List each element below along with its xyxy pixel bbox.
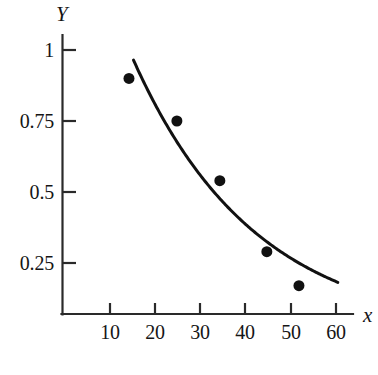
data-point xyxy=(123,73,134,84)
fitted-curve xyxy=(134,60,338,282)
y-tick-label-0-75: 0.75 xyxy=(20,111,54,131)
x-tick-label-20: 20 xyxy=(145,322,165,342)
data-point-group xyxy=(123,73,304,291)
data-point xyxy=(261,246,272,257)
x-axis-ticks xyxy=(110,303,336,314)
x-tick-label-40: 40 xyxy=(235,322,255,342)
data-point xyxy=(171,116,182,127)
data-point xyxy=(214,175,225,186)
x-tick-label-30: 30 xyxy=(190,322,210,342)
axis-lines xyxy=(62,35,354,315)
x-axis-title: x xyxy=(363,305,372,326)
y-tick-label-0-25: 0.25 xyxy=(20,253,54,273)
y-tick-label-0-5: 0.5 xyxy=(30,182,54,202)
y-tick-label-1: 1 xyxy=(44,40,54,60)
x-tick-label-60: 60 xyxy=(326,322,346,342)
plot-canvas xyxy=(0,0,378,375)
y-axis-title: Y xyxy=(56,4,68,25)
x-tick-label-10: 10 xyxy=(100,322,120,342)
x-tick-label-50: 50 xyxy=(281,322,301,342)
data-point xyxy=(293,280,304,291)
y-axis-ticks xyxy=(63,50,77,263)
scatter-plot-figure: 1 0.75 0.5 0.25 10 20 30 40 50 60 Y x xyxy=(0,0,378,375)
